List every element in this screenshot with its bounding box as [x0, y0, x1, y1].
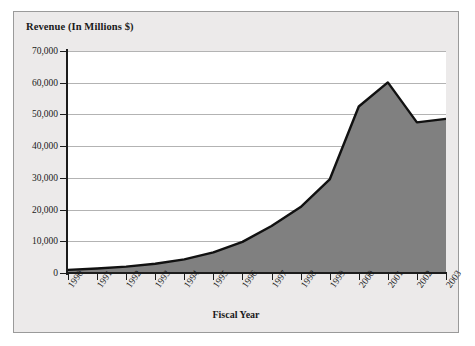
y-axis-tick-label: 30,000: [14, 173, 58, 183]
y-axis-tick-label: 70,000: [14, 46, 58, 56]
y-axis-line: [66, 49, 68, 275]
y-axis-tick-label: 60,000: [14, 78, 58, 88]
plot-area: [68, 51, 446, 273]
y-axis-tick-label: 10,000: [14, 236, 58, 246]
y-axis-tick-label: 0: [14, 268, 58, 278]
area-fill-path: [68, 82, 446, 273]
x-axis-title: Fiscal Year: [14, 309, 458, 320]
y-axis-tick-label: 50,000: [14, 109, 58, 119]
revenue-area-series: [68, 51, 446, 273]
y-axis-tick-labels: 010,00020,00030,00040,00050,00060,00070,…: [14, 12, 58, 334]
y-axis-tick-label: 20,000: [14, 205, 58, 215]
chart-figure: Revenue (In Millions $) 010,00020,00030,…: [13, 11, 459, 333]
y-axis-tick-label: 40,000: [14, 141, 58, 151]
